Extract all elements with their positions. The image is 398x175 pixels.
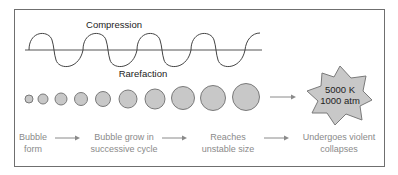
bubble (145, 89, 165, 109)
pressure-value: 1000 atm (314, 95, 366, 106)
bubble (201, 86, 226, 111)
arrow-to-star (270, 95, 296, 100)
stage-arrow-1 (55, 136, 80, 141)
stage-bubble-grow: Bubble grow in successive cycle (88, 131, 160, 155)
bubble (38, 94, 48, 104)
bubble (233, 84, 260, 111)
stage-unstable-size: Reaches unstable size (198, 131, 258, 155)
bubble (96, 92, 111, 107)
stage-bubble-form: Bubble form (12, 131, 54, 155)
temperature-value: 5000 K (314, 84, 366, 95)
bubble (55, 93, 67, 105)
star-conditions: 5000 K 1000 atm (314, 84, 366, 106)
stage-arrow-2 (162, 136, 187, 141)
stage-violent-collapse: Undergoes violent collapses (296, 131, 382, 155)
stage-arrow-3 (264, 136, 289, 141)
bubble (75, 93, 88, 106)
bubble-row (25, 84, 260, 111)
bubble (25, 95, 33, 103)
rarefaction-label: Rarefaction (103, 68, 183, 79)
bubble (119, 90, 137, 108)
bubble (172, 87, 195, 110)
compression-label: Compression (74, 19, 154, 30)
